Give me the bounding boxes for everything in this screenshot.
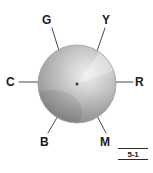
leader-line-yellow xyxy=(96,28,105,54)
label-cyan: C xyxy=(6,76,15,88)
lower-left-shade xyxy=(22,90,82,134)
label-blue: B xyxy=(40,136,49,148)
label-green: G xyxy=(42,14,51,26)
color-wheel-figure: G Y C R B M 5-1 xyxy=(0,0,153,173)
figure-caption: 5-1 xyxy=(118,148,148,160)
sphere-shading xyxy=(22,18,150,134)
label-magenta: M xyxy=(100,136,110,148)
label-yellow: Y xyxy=(102,14,110,26)
center-dot xyxy=(76,83,79,86)
label-red: R xyxy=(135,76,144,88)
